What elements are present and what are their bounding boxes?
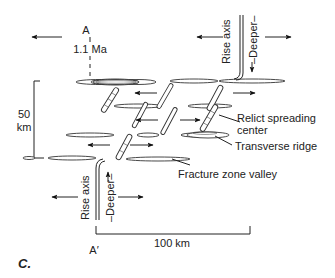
ridge-segment	[160, 107, 178, 135]
rise-axis-top-inner	[234, 15, 240, 79]
tectonic-diagram: A 1.1 Ma 50 km	[0, 0, 335, 278]
fracture-valley	[137, 133, 159, 137]
transverse-ridge-top	[93, 80, 139, 85]
scale-vertical-unit: km	[17, 121, 32, 133]
profile-start-label: A	[82, 24, 90, 36]
fracture-zone-label: Fracture zone valley	[178, 168, 278, 180]
vertical-scale-bar	[34, 81, 44, 158]
transverse-ridge-label: Transverse ridge	[235, 140, 317, 152]
fracture-valley	[23, 157, 35, 160]
panel-letter: C.	[18, 256, 31, 271]
fracture-valley	[219, 79, 285, 83]
age-label: 1.1 Ma	[73, 43, 108, 55]
relict-label-line2: center	[237, 124, 268, 136]
fracture-valley	[66, 133, 114, 137]
relict-label-line1: Relict spreading	[237, 112, 316, 124]
ridge-segment	[156, 83, 173, 109]
scale-vertical-value: 50	[18, 108, 30, 120]
transverse-ridge	[187, 132, 229, 138]
rise-axis-top-label: Rise axis	[220, 19, 232, 64]
deeper-bottom-label: –Deeper–	[104, 173, 116, 222]
rise-axis-bottom-label: Rise axis	[79, 175, 91, 220]
ridge-segment	[115, 133, 133, 160]
scale-horizontal-label: 100 km	[154, 237, 190, 249]
fracture-valley	[170, 79, 218, 83]
ridge-segments	[100, 83, 223, 161]
profile-end-label: A′	[89, 244, 98, 256]
fracture-valley	[126, 157, 190, 161]
horizontal-scale-bar	[96, 226, 250, 234]
fracture-valley	[48, 156, 96, 160]
fracture-valley	[114, 104, 162, 108]
deeper-top-label: –Deeper–	[247, 15, 259, 64]
